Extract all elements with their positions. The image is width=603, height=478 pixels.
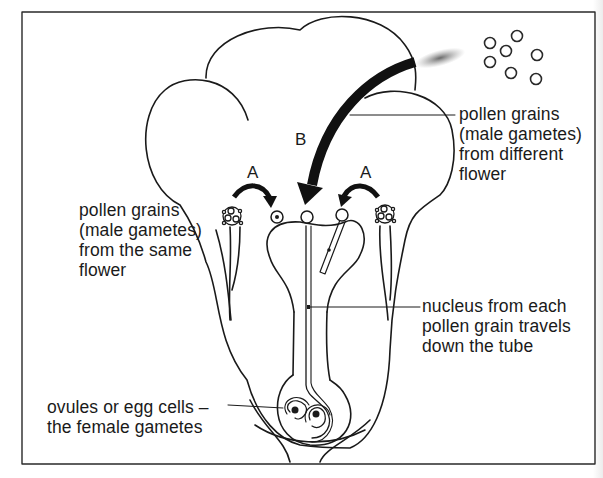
pollen-tube-right — [320, 220, 345, 274]
label-ovules: ovules or egg cells – the female gametes — [47, 397, 209, 437]
style-left — [293, 312, 294, 375]
leader-ovules — [228, 405, 283, 408]
airborne-pollen-grains — [485, 31, 543, 85]
arrow-b-head — [297, 182, 323, 205]
anther-right — [375, 205, 395, 223]
stigma-lobes — [267, 221, 364, 312]
label-arrow-a-left: A — [247, 163, 258, 183]
tube-nucleus-right — [327, 248, 331, 252]
tube-nucleus-dot — [307, 305, 310, 309]
label-same-flower: pollen grains (male gametes) from the sa… — [79, 200, 202, 280]
arrow-a-right-head — [338, 194, 352, 207]
egg-cell-nucleus-2 — [313, 411, 320, 418]
stamen-right-filament — [380, 226, 392, 320]
label-arrow-b: B — [295, 130, 306, 150]
label-nucleus-tube: nucleus from each pollen grain travels d… — [422, 296, 571, 356]
stamen-left-filament — [229, 227, 240, 320]
label-arrow-a-right: A — [360, 163, 371, 183]
egg-cell-nucleus-1 — [292, 407, 299, 414]
anther-left — [222, 207, 242, 225]
pollen-spray-trail — [413, 44, 467, 73]
pollen-nucleus-dot — [275, 215, 279, 219]
stigma-center-grain — [301, 211, 313, 223]
arrow-a-left-head — [263, 196, 277, 208]
arrow-a-right — [344, 186, 378, 197]
pollen-on-stigma-right — [336, 209, 348, 221]
style-right — [326, 312, 330, 380]
ovule-right — [309, 408, 325, 428]
label-different-flower: pollen grains (male gametes) from differ… — [459, 104, 582, 184]
